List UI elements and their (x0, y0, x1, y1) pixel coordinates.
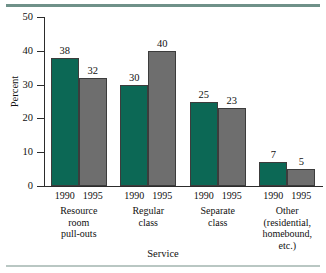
y-tick-mark (37, 51, 44, 52)
x-axis-title: Service (0, 248, 326, 259)
y-tick-label: 30 (7, 80, 33, 90)
bar-value-label: 7 (259, 149, 287, 160)
bar-value-label: 40 (148, 38, 176, 49)
y-tick-label: 50 (7, 12, 33, 22)
bar-1990-group1[interactable] (120, 85, 148, 186)
x-year-label-1995: 1995 (76, 190, 110, 201)
bar-value-label: 32 (79, 65, 107, 76)
bar-value-label: 38 (51, 45, 79, 56)
bar-1990-group0[interactable] (51, 58, 79, 186)
y-tick-label: 0 (7, 181, 33, 191)
bar-1995-group3[interactable] (287, 169, 315, 186)
bar-value-label: 23 (218, 95, 246, 106)
bar-1995-group1[interactable] (148, 51, 176, 186)
bar-1995-group0[interactable] (79, 78, 107, 186)
bar-1995-group2[interactable] (218, 108, 246, 186)
y-tick-mark (37, 152, 44, 153)
bar-value-label: 30 (120, 72, 148, 83)
bar-1990-group2[interactable] (190, 102, 218, 187)
y-tick-label: 20 (7, 113, 33, 123)
bar-value-label: 5 (287, 156, 315, 167)
x-category-line: Other (245, 205, 326, 217)
x-year-label-1995: 1995 (284, 190, 318, 201)
plot-area (44, 17, 322, 186)
y-tick-mark (37, 17, 44, 18)
bar-value-label: 25 (190, 89, 218, 100)
x-axis-line (44, 186, 323, 187)
y-tick-mark (37, 118, 44, 119)
x-category-line: (residential, (245, 217, 326, 229)
y-tick-mark (37, 186, 44, 187)
x-category-label-group3: Other(residential,homebound,etc.) (245, 205, 326, 251)
x-category-line: homebound, (245, 228, 326, 240)
x-category-line: pull-outs (37, 228, 121, 240)
x-year-label-1995: 1995 (145, 190, 179, 201)
x-year-label-1995: 1995 (215, 190, 249, 201)
y-tick-label: 40 (7, 46, 33, 56)
bar-1990-group3[interactable] (259, 162, 287, 186)
top-divider-rule (6, 4, 320, 7)
y-tick-label: 10 (7, 147, 33, 157)
bottom-divider-rule (6, 265, 320, 267)
y-tick-mark (37, 85, 44, 86)
